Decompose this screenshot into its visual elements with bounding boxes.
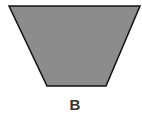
trapezoid-polygon [9,6,140,86]
figure-label: B [0,96,142,113]
